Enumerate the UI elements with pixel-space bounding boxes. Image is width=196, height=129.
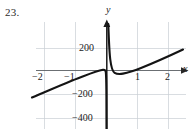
xtick-label-1: 1	[135, 71, 140, 82]
ytick-label-neg400: −400	[72, 112, 93, 123]
xtick-label-neg2: −2	[32, 71, 43, 82]
curve-right-branch	[108, 24, 183, 74]
figure-container: 23. −2 −1 1 2 200 −200 −400 x y	[0, 0, 196, 129]
xtick-label-2: 2	[165, 71, 170, 82]
ytick-label-neg200: −200	[72, 88, 93, 99]
x-axis-label: x	[183, 63, 187, 74]
ytick-label-200: 200	[79, 42, 94, 53]
grid-lines	[36, 22, 186, 129]
y-axis-label: y	[106, 4, 110, 15]
graph-plot	[0, 0, 196, 129]
xtick-label-neg1: −1	[64, 71, 75, 82]
